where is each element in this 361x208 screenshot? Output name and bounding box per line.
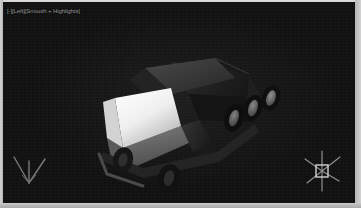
- omni-light-gizmo-icon[interactable]: [299, 149, 345, 195]
- world-axis-tripod-icon: [8, 153, 52, 197]
- viewport-label: [-][Left][Smooth + Highlights]: [7, 8, 80, 15]
- viewport-canvas[interactable]: [-][Left][Smooth + Highlights]: [3, 2, 355, 203]
- wheel-rear-3: [258, 83, 283, 113]
- frame-bottom-edge: [0, 203, 361, 208]
- modeling-app-window: [-][Left][Smooth + Highlights]: [0, 0, 361, 208]
- frame-right-edge: [355, 0, 361, 208]
